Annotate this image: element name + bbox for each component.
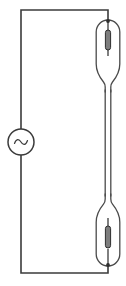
- top-node-dot: [106, 19, 110, 23]
- top-wire: [21, 10, 108, 129]
- upper-bulb[interactable]: [96, 19, 120, 92]
- connecting-neck: [105, 90, 111, 196]
- bottom-wire: [21, 155, 108, 273]
- circuit-schematic: [0, 0, 126, 286]
- lower-bulb-electrode: [105, 226, 110, 248]
- bottom-node-dot: [106, 263, 110, 267]
- lower-bulb[interactable]: [96, 194, 120, 267]
- upper-bulb-electrode: [105, 30, 110, 50]
- ac-source-symbol[interactable]: [8, 129, 34, 155]
- circuit-diagram-canvas: [0, 0, 126, 286]
